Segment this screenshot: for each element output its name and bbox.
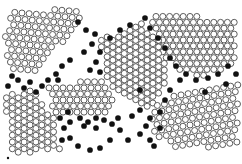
lattice-atom: [164, 113, 170, 119]
lattice-atom: [228, 37, 234, 43]
lattice-atom: [56, 146, 62, 152]
lattice-atom: [19, 10, 25, 16]
lattice-atom: [199, 107, 205, 113]
lattice-atom: [12, 53, 18, 59]
lattice-atom: [127, 60, 133, 66]
lattice-atom: [110, 57, 116, 63]
lattice-atom: [27, 102, 33, 108]
lattice-atom: [64, 91, 70, 97]
lattice-atom: [161, 67, 167, 73]
lattice-atom: [47, 25, 53, 31]
lattice-atom: [221, 25, 227, 31]
lattice-atom: [221, 37, 227, 43]
lattice-atom: [234, 101, 240, 107]
lattice-atom: [156, 134, 162, 140]
lattice-atom: [194, 61, 200, 67]
lattice-atom: [85, 91, 91, 97]
lattice-atom: [12, 9, 18, 15]
boundary-atom: [157, 125, 163, 131]
lattice-atom: [225, 128, 231, 134]
lattice-atom: [150, 87, 156, 93]
lattice-atom: [11, 22, 17, 28]
lattice-atom: [156, 84, 162, 90]
lattice-atom: [218, 31, 224, 37]
lattice-atom: [197, 31, 203, 37]
lattice-atom: [44, 50, 50, 56]
boundary-atom: [21, 85, 27, 91]
lattice-atom: [31, 36, 37, 42]
lattice-atom: [224, 19, 230, 25]
lattice-atom: [40, 56, 46, 62]
lattice-atom: [50, 91, 56, 97]
lattice-atom: [133, 31, 139, 37]
lattice-atom: [110, 64, 116, 70]
boundary-atom: [59, 63, 65, 69]
lattice-atom: [207, 37, 213, 43]
lattice-atom: [154, 102, 160, 108]
lattice-atom: [187, 61, 193, 67]
lattice-atom: [48, 13, 54, 19]
lattice-atom: [133, 37, 139, 43]
lattice-atom: [3, 102, 9, 108]
boundary-atom: [75, 19, 81, 25]
lattice-atom: [27, 149, 33, 155]
lattice-atom: [102, 85, 108, 91]
lattice-atom: [21, 105, 27, 111]
lattice-atom: [163, 31, 169, 37]
lattice-atom: [27, 95, 33, 101]
top-left-grain: [2, 7, 82, 74]
lattice-atom: [121, 77, 127, 83]
lattice-atom: [50, 31, 56, 37]
lattice-atom: [222, 116, 228, 122]
boundary-atom: [65, 109, 71, 115]
lattice-atom: [192, 128, 198, 134]
lattice-atom: [85, 103, 91, 109]
lattice-atom: [49, 44, 55, 50]
lattice-atom: [197, 55, 203, 61]
lattice-atom: [15, 122, 21, 128]
lattice-atom: [160, 25, 166, 31]
lattice-atom: [218, 91, 224, 97]
lattice-atom: [133, 77, 139, 83]
lattice-atom: [8, 15, 14, 21]
lattice-atom: [192, 89, 198, 95]
lattice-atom: [144, 77, 150, 83]
lattice-atom: [15, 16, 21, 22]
lattice-atom: [210, 131, 216, 137]
lattice-atom: [69, 14, 75, 20]
corner-marker: [7, 157, 9, 159]
lattice-atom: [27, 136, 33, 142]
lattice-atom: [218, 19, 224, 25]
lattice-atom: [25, 23, 31, 29]
lattice-atom: [21, 98, 27, 104]
lattice-atom: [21, 91, 27, 97]
lattice-atom: [167, 25, 173, 31]
lattice-atom: [3, 108, 9, 114]
lattice-atom: [110, 84, 116, 90]
lattice-atom: [4, 53, 10, 59]
lattice-atom: [178, 111, 184, 117]
lattice-atom: [224, 43, 230, 49]
lattice-atom: [116, 41, 122, 47]
lattice-atom: [104, 60, 110, 66]
boundary-atom: [205, 75, 211, 81]
lattice-atom: [65, 20, 71, 26]
lattice-atom: [231, 43, 237, 49]
lattice-atom: [39, 142, 45, 148]
lattice-atom: [194, 121, 200, 127]
lattice-atom: [214, 61, 220, 67]
lattice-atom: [150, 60, 156, 66]
lattice-atom: [156, 64, 162, 70]
lattice-atom: [67, 97, 73, 103]
boundary-atom: [9, 73, 15, 79]
lattice-atom: [180, 49, 186, 55]
lattice-atom: [187, 122, 193, 128]
boundary-atom: [107, 35, 113, 41]
lattice-atom: [187, 103, 193, 109]
lattice-atom: [104, 41, 110, 47]
lattice-atom: [92, 91, 98, 97]
boundary-atom: [117, 127, 123, 133]
boundary-atom: [5, 83, 11, 89]
boundary-atom: [61, 125, 67, 131]
lattice-atom: [33, 98, 39, 104]
